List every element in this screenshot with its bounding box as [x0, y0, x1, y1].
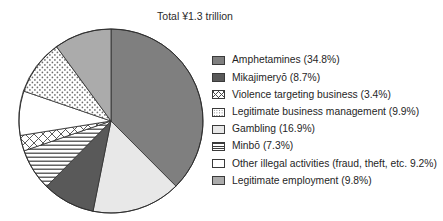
legend-item-violence-targeting-business[interactable]: Violence targeting business (3.4%) [212, 86, 440, 103]
legend-item-legitimate-employment[interactable]: Legitimate employment (9.8%) [212, 172, 440, 189]
legend-item-label: Other illegal activities (fraud, theft, … [232, 159, 437, 169]
pie-plot-area [16, 26, 206, 216]
legend-swatch-icon [212, 176, 225, 185]
chart-title-text: Total ¥1.3 trillion [157, 10, 233, 22]
pie-slices [19, 29, 203, 213]
chart-legend: Amphetamines (34.8%) Mikajimeryō (8.7%) … [212, 52, 440, 190]
legend-item-label: Gambling (16.9%) [232, 124, 315, 134]
legend-swatch-icon [212, 56, 225, 65]
legend-item-label: Violence targeting business (3.4%) [232, 90, 391, 100]
legend-swatch-icon [212, 108, 225, 117]
legend-swatch-icon [212, 159, 225, 168]
legend-swatch-icon [212, 73, 225, 82]
pie-svg [16, 26, 206, 216]
legend-item-label: Minbō (7.3%) [232, 141, 293, 151]
legend-item-label: Mikajimeryō (8.7%) [232, 73, 320, 83]
legend-item-amphetamines[interactable]: Amphetamines (34.8%) [212, 52, 440, 69]
chart-title: Total ¥1.3 trillion [30, 6, 360, 24]
legend-item-legitimate-business-management[interactable]: Legitimate business management (9.9%) [212, 104, 440, 121]
legend-item-gambling[interactable]: Gambling (16.9%) [212, 121, 440, 138]
pie-chart-figure: Total ¥1.3 trillion [0, 0, 443, 221]
legend-swatch-icon [212, 142, 225, 151]
legend-swatch-icon [212, 90, 225, 99]
legend-item-label: Legitimate employment (9.8%) [232, 176, 372, 186]
legend-item-minbo[interactable]: Minbō (7.3%) [212, 138, 440, 155]
legend-swatch-icon [212, 125, 225, 134]
legend-item-label: Legitimate business management (9.9%) [232, 107, 419, 117]
legend-item-mikajimeryo[interactable]: Mikajimeryō (8.7%) [212, 69, 440, 86]
legend-item-label: Amphetamines (34.8%) [232, 55, 340, 65]
legend-item-other-illegal-activities[interactable]: Other illegal activities (fraud, theft, … [212, 155, 440, 172]
